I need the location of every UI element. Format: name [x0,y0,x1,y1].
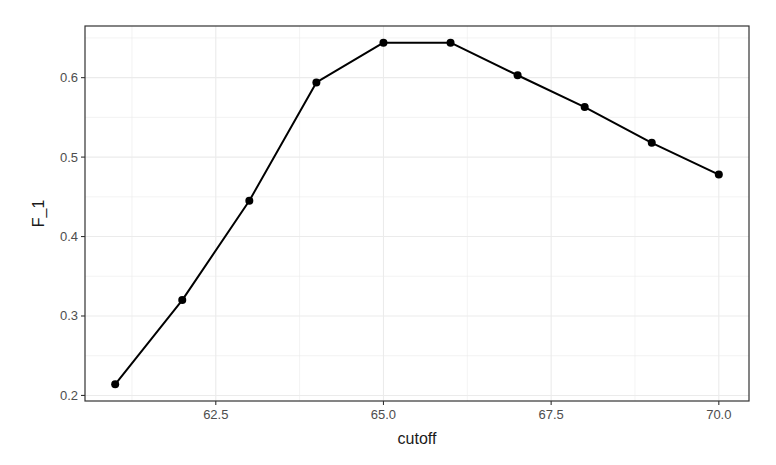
x-axis: 62.565.067.570.0 [203,401,731,422]
data-point-marker [379,39,387,47]
panel-border [85,26,749,401]
data-point-marker [178,296,186,304]
data-point-marker [648,139,656,147]
y-tick-label: 0.2 [60,388,78,403]
x-tick-label: 65.0 [371,407,396,422]
data-point-marker [715,171,723,179]
x-tick-label: 62.5 [203,407,228,422]
y-tick-label: 0.6 [60,70,78,85]
data-point-marker [245,197,253,205]
x-tick-label: 70.0 [706,407,731,422]
y-tick-label: 0.3 [60,308,78,323]
x-axis-title: cutoff [398,430,437,447]
line-chart: 62.565.067.570.0 0.20.30.40.50.6 cutoff … [0,0,776,465]
data-series [111,39,723,389]
data-point-marker [312,78,320,86]
y-axis: 0.20.30.40.50.6 [60,70,85,403]
major-gridlines [85,26,749,401]
y-tick-label: 0.5 [60,150,78,165]
x-tick-label: 67.5 [538,407,563,422]
y-tick-label: 0.4 [60,229,78,244]
series-line [115,43,719,385]
data-point-marker [447,39,455,47]
y-axis-title: F_1 [30,200,48,228]
data-point-marker [111,380,119,388]
data-point-marker [581,103,589,111]
data-point-marker [514,71,522,79]
minor-gridlines [85,26,749,401]
